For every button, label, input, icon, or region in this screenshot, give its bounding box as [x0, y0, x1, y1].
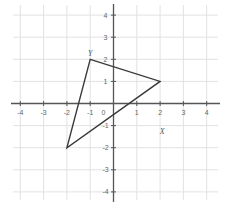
- coordinate-plane: -4-3-2-101234-4-3-2-11234 YX: [0, 0, 227, 208]
- y-tick-label: 2: [104, 56, 108, 63]
- x-tick-label: -1: [87, 109, 93, 116]
- y-tick-label: -2: [102, 144, 108, 151]
- x-tick-label: 2: [158, 109, 162, 116]
- x-tick-label: 0: [102, 109, 106, 116]
- y-tick-label: 3: [104, 34, 108, 41]
- y-tick-label: 4: [104, 12, 108, 19]
- vertex-label-x: X: [159, 127, 166, 136]
- x-tick-label: 4: [205, 109, 209, 116]
- y-tick-label: -1: [102, 122, 108, 129]
- y-tick-label: -3: [102, 166, 108, 173]
- y-tick-label: -4: [102, 188, 108, 195]
- x-tick-label: 3: [181, 109, 185, 116]
- vertex-label-y: Y: [88, 49, 94, 58]
- x-tick-label: -3: [40, 109, 46, 116]
- axes: [11, 4, 220, 202]
- x-tick-label: -4: [17, 109, 23, 116]
- x-tick-label: 1: [135, 109, 139, 116]
- x-tick-label: -2: [64, 109, 70, 116]
- y-tick-label: 1: [104, 78, 108, 85]
